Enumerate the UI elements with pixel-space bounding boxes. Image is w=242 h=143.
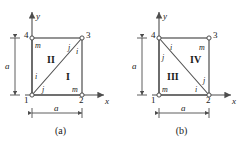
element-label-III: III [167,72,179,82]
node-label-1: 1 [151,96,156,105]
node-label-4: 4 [24,31,29,40]
panel-b: y x 1 2 3 4 i j m m j i III IV a a (b) [121,0,242,143]
node-marker-1 [157,93,161,97]
panel-b-drawing [121,0,242,143]
node-label-2: 2 [79,96,84,105]
node-marker-3 [80,36,84,40]
node-label-3: 3 [213,31,218,40]
element-label-I: I [66,72,70,82]
local-label-j-node4: j [162,54,164,62]
local-label-m-node1: m [162,86,168,94]
figure-root: y x 1 2 3 4 m j i i j m II I a a (a) [0,0,242,143]
node-label-4: 4 [151,31,156,40]
local-label-m-node4: m [35,42,41,50]
local-label-i-node1: i [35,73,37,81]
panel-a-drawing [0,0,121,143]
local-label-j-node3: j [68,44,70,52]
local-label-m-node2: m [72,86,78,94]
horizontal-dimension-label: a [54,104,59,113]
x-axis-label: x [105,97,109,106]
element-label-IV: IV [190,55,201,65]
element-label-II: II [47,55,55,65]
y-axis-label: y [163,12,167,21]
local-label-j-node2: j [203,77,205,85]
x-axis-label: x [232,97,236,106]
local-label-j-node1: j [42,86,44,94]
local-label-i-node4: i [170,44,172,52]
vertical-dimension-label: a [5,62,10,71]
panel-a: y x 1 2 3 4 m j i i j m II I a a (a) [0,0,121,143]
panel-a-caption: (a) [0,126,121,136]
node-marker-1 [30,93,34,97]
local-label-m-node3: m [199,44,205,52]
vertical-dimension-label: a [132,62,137,71]
node-marker-4 [30,36,34,40]
node-marker-4 [157,36,161,40]
node-marker-3 [207,36,211,40]
node-label-3: 3 [86,31,91,40]
horizontal-dimension-label: a [181,104,186,113]
local-label-i-node3: i [76,48,78,56]
node-label-1: 1 [24,96,29,105]
y-axis-label: y [36,12,40,21]
node-label-2: 2 [206,96,211,105]
local-label-i-node2: i [195,86,197,94]
panel-b-caption: (b) [121,126,242,136]
